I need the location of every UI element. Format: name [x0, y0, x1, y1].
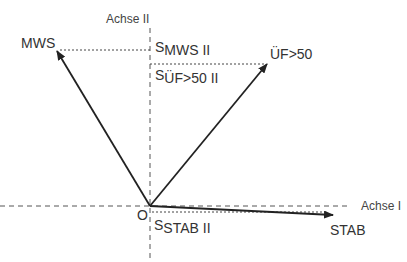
projection-label-uf50-prefix: S [155, 67, 164, 83]
vector-stab-label: STAB [330, 222, 366, 238]
vector-stab-arrow [150, 206, 333, 215]
axis-vertical-label: Achse II [106, 12, 149, 26]
vector-mws-label: MWS [21, 35, 55, 51]
vector-diagram: Achse II Achse I O MWS ÜF>50 STAB SMWS I… [0, 0, 407, 262]
axis-horizontal-label: Achse I [361, 199, 401, 213]
projection-label-mws-sub: MWS II [164, 42, 210, 58]
projection-label-stab-prefix: S [154, 217, 163, 233]
projection-label-uf50-sub: ÜF>50 II [164, 69, 218, 86]
projection-label-stab-sub: STAB II [163, 220, 210, 236]
origin-label: O [137, 207, 148, 223]
projection-label-mws: SMWS II [155, 39, 210, 58]
projection-label-stab: SSTAB II [154, 217, 211, 236]
vector-mws-arrow [57, 51, 150, 206]
projection-label-mws-prefix: S [155, 39, 164, 55]
vector-uf50-label: ÜF>50 [270, 45, 313, 62]
projection-label-uf50: SÜF>50 II [155, 67, 218, 86]
